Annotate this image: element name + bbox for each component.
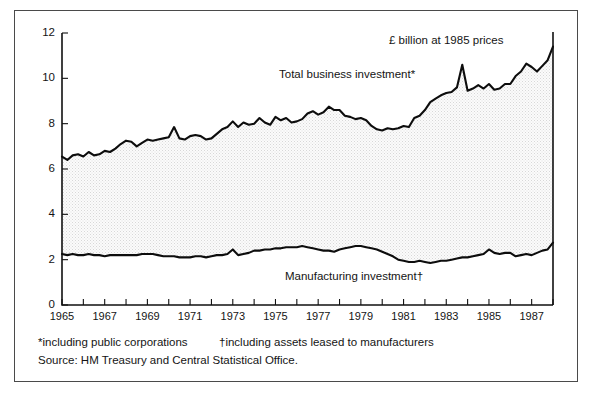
chart-plot-area: 024681012 196519671969197119731975197719… bbox=[0, 0, 599, 397]
footnote-public-corporations: *including public corporations bbox=[38, 336, 188, 348]
manufacturing-investment-label: Manufacturing investment† bbox=[285, 270, 423, 282]
x-tick-label-1983: 1983 bbox=[426, 310, 466, 322]
x-tick-label-1973: 1973 bbox=[213, 310, 253, 322]
y-tick-label-8: 8 bbox=[29, 117, 55, 129]
y-tick-label-2: 2 bbox=[29, 253, 55, 265]
x-tick-label-1987: 1987 bbox=[512, 310, 552, 322]
y-tick-label-10: 10 bbox=[29, 71, 55, 83]
x-tick-label-1965: 1965 bbox=[42, 310, 82, 322]
x-tick-label-1985: 1985 bbox=[469, 310, 509, 322]
x-tick-label-1969: 1969 bbox=[127, 310, 167, 322]
x-tick-label-1967: 1967 bbox=[85, 310, 125, 322]
x-tick-label-1971: 1971 bbox=[170, 310, 210, 322]
x-tick-label-1975: 1975 bbox=[255, 310, 295, 322]
y-tick-label-6: 6 bbox=[29, 162, 55, 174]
footnote-leased-assets: †including assets leased to manufacturer… bbox=[219, 336, 434, 348]
y-tick-label-12: 12 bbox=[29, 26, 55, 38]
x-tick-label-1981: 1981 bbox=[384, 310, 424, 322]
x-tick-label-1977: 1977 bbox=[298, 310, 338, 322]
y-tick-label-4: 4 bbox=[29, 207, 55, 219]
y-tick-label-0: 0 bbox=[29, 298, 55, 310]
footnote-source: Source: HM Treasury and Central Statisti… bbox=[38, 354, 298, 366]
x-tick-label-1979: 1979 bbox=[341, 310, 381, 322]
figure-container: 024681012 196519671969197119731975197719… bbox=[0, 0, 599, 397]
units-note-label: £ billion at 1985 prices bbox=[389, 34, 503, 46]
total-business-investment-label: Total business investment* bbox=[279, 68, 415, 80]
